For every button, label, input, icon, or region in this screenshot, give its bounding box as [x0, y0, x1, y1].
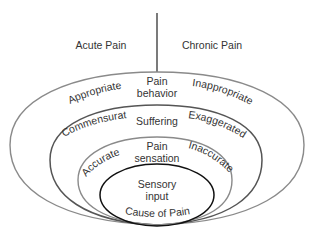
pain-sensation-label-2: sensation [135, 152, 180, 164]
suffering-label: Suffering [136, 115, 178, 127]
pain-onion-diagram: Acute Pain Chronic Pain Pain behavior Ap… [0, 0, 319, 234]
chronic-pain-label: Chronic Pain [182, 39, 242, 51]
inaccurate-label: Inaccurate [187, 138, 236, 174]
inappropriate-label: Inappropriate [192, 76, 256, 107]
pain-sensation-label-1: Pain [146, 140, 167, 152]
acute-pain-label: Acute Pain [76, 39, 127, 51]
sensory-input-label-1: Sensory [138, 178, 177, 190]
sensory-input-label-2: input [146, 190, 169, 202]
pain-behavior-label-2: behavior [137, 87, 178, 99]
pain-behavior-label-1: Pain [146, 75, 167, 87]
commensurate-label: Commensurate [0, 0, 127, 139]
cause-of-pain-label: Cause of Pain [124, 204, 190, 219]
